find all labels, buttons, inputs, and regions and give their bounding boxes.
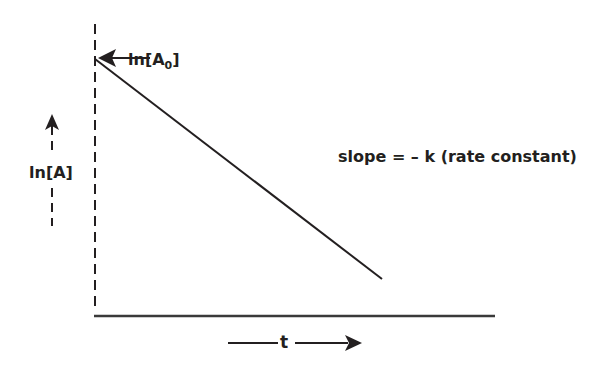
intercept-label: ln[A0] (128, 50, 180, 72)
plot-canvas (0, 0, 601, 366)
t-direction-arrow-icon (228, 335, 362, 351)
ln-a-vs-t-line (95, 59, 382, 279)
y-axis-label: ln[A] (29, 163, 73, 182)
x-axis-label: t (280, 332, 288, 352)
slope-annotation: slope = – k (rate constant) (338, 147, 577, 166)
